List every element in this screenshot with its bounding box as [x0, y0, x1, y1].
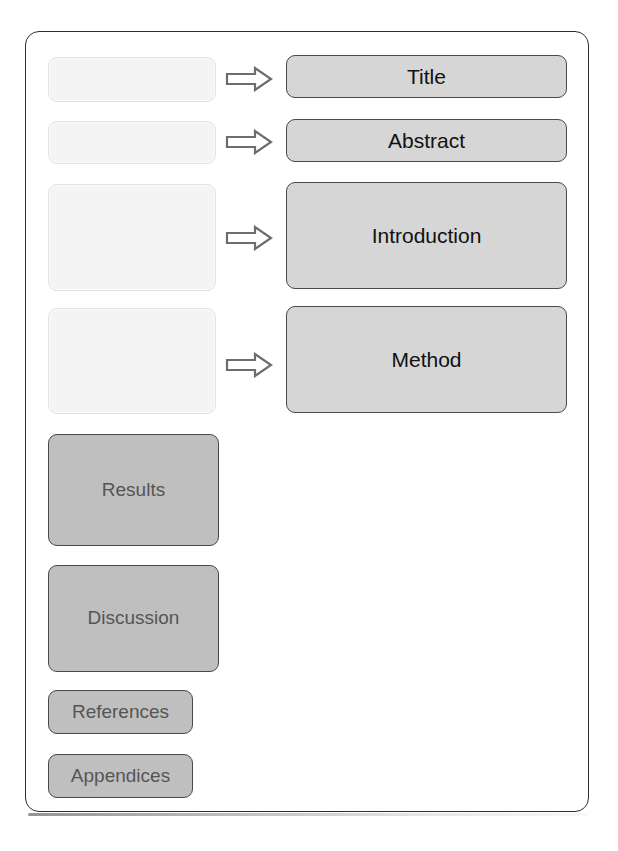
stage-box-references[interactable]: References: [48, 690, 193, 734]
section-box-title-label: Title: [407, 65, 446, 88]
stage-box-references-label: References: [72, 702, 169, 723]
section-box-introduction[interactable]: Introduction: [286, 182, 567, 289]
section-box-abstract[interactable]: Abstract: [286, 119, 567, 162]
placeholder-box-4[interactable]: [48, 308, 216, 414]
stage-box-discussion[interactable]: Discussion: [48, 565, 219, 672]
arrow-right-icon-2: [225, 129, 273, 155]
section-box-method[interactable]: Method: [286, 306, 567, 413]
section-box-title[interactable]: Title: [286, 55, 567, 98]
section-box-method-label: Method: [391, 348, 461, 371]
section-box-introduction-label: Introduction: [372, 224, 482, 247]
stage-box-discussion-label: Discussion: [88, 608, 180, 629]
placeholder-box-1[interactable]: [48, 57, 216, 102]
stage-box-results[interactable]: Results: [48, 434, 219, 546]
placeholder-box-2[interactable]: [48, 121, 216, 164]
scan-edge-shadow: [28, 813, 588, 816]
stage-box-appendices[interactable]: Appendices: [48, 754, 193, 798]
arrow-right-icon-1: [225, 66, 273, 92]
arrow-right-icon-4: [225, 352, 273, 378]
placeholder-box-3[interactable]: [48, 184, 216, 291]
stage-box-results-label: Results: [102, 480, 165, 501]
section-box-abstract-label: Abstract: [388, 129, 465, 152]
stage-box-appendices-label: Appendices: [71, 766, 170, 787]
diagram-frame: Title Abstract Introduction Method Resul…: [25, 31, 589, 812]
arrow-right-icon-3: [225, 225, 273, 251]
